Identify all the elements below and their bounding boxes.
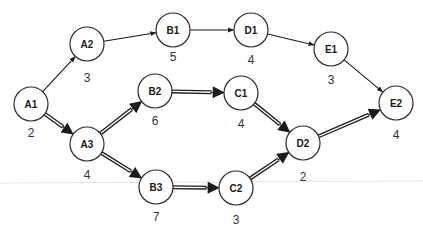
edge-e1-e2 xyxy=(344,60,382,92)
node-c2: C23 xyxy=(219,171,253,227)
edge-a3-b2 xyxy=(100,102,141,134)
edge-b2-c1 xyxy=(172,91,224,92)
node-label: D2 xyxy=(297,138,310,149)
node-weight: 3 xyxy=(328,73,335,87)
edge-line-inner xyxy=(101,153,131,171)
edge-line xyxy=(104,33,156,41)
arrowhead-icon xyxy=(279,124,289,132)
node-label: A1 xyxy=(25,99,38,110)
node-label: A3 xyxy=(81,139,94,150)
node-weight: 4 xyxy=(393,128,400,142)
node-c1: C14 xyxy=(224,76,258,131)
node-label: C2 xyxy=(230,183,243,194)
edge-line-inner xyxy=(250,159,278,178)
edge-line-inner xyxy=(45,114,63,127)
edge-line xyxy=(268,34,314,45)
edge-line-inner xyxy=(172,91,212,92)
node-weight: 4 xyxy=(248,53,255,67)
node-a2: A23 xyxy=(70,27,104,85)
node-b1: B15 xyxy=(156,13,190,64)
node-weight: 3 xyxy=(233,213,240,227)
node-a1: A12 xyxy=(14,87,48,140)
edge-line xyxy=(344,60,382,92)
edge-line xyxy=(43,57,75,92)
network-diagram: A12A23A34B15B26B37C14C23D14D22E13E24 xyxy=(0,0,423,234)
node-d1: D14 xyxy=(234,13,268,67)
horizontal-rule xyxy=(0,181,423,183)
node-weight: 2 xyxy=(28,126,35,140)
node-e1: E13 xyxy=(314,32,348,87)
node-weight: 6 xyxy=(152,114,159,128)
node-weight: 4 xyxy=(238,117,245,131)
node-d2: D22 xyxy=(286,126,320,184)
node-weight: 7 xyxy=(153,210,160,224)
node-label: B3 xyxy=(150,182,163,193)
arrowhead-icon xyxy=(131,102,141,110)
node-e2: E24 xyxy=(379,86,413,142)
edge-line-inner xyxy=(319,115,369,137)
node-weight: 2 xyxy=(300,170,307,184)
edge-c1-d2 xyxy=(254,104,289,132)
edge-a3-b3 xyxy=(101,153,141,178)
node-weight: 4 xyxy=(84,168,91,182)
node-weight: 5 xyxy=(170,50,177,64)
arrowhead-icon xyxy=(368,110,380,115)
node-label: A2 xyxy=(81,39,94,50)
node-label: B1 xyxy=(167,25,180,36)
edge-d2-e2 xyxy=(319,110,380,136)
edge-c2-d2 xyxy=(250,153,288,179)
node-a3: A34 xyxy=(70,127,104,182)
edge-b3-c2 xyxy=(173,187,219,188)
node-b3: B37 xyxy=(139,170,173,224)
edge-a2-b1 xyxy=(104,33,156,41)
edge-line-inner xyxy=(100,109,131,133)
node-label: E1 xyxy=(325,44,338,55)
edge-line-inner xyxy=(254,104,280,125)
arrowhead-icon xyxy=(130,171,141,178)
node-weight: 3 xyxy=(84,71,91,85)
node-label: B2 xyxy=(149,86,162,97)
node-label: E2 xyxy=(390,98,403,109)
edge-d1-e1 xyxy=(268,34,314,45)
arrowhead-icon xyxy=(62,126,73,134)
edge-a1-a3 xyxy=(45,114,73,134)
node-label: D1 xyxy=(245,25,258,36)
edge-a1-a2 xyxy=(43,57,75,92)
node-label: C1 xyxy=(235,88,248,99)
arrowhead-icon xyxy=(278,153,289,160)
node-b2: B26 xyxy=(138,74,172,128)
